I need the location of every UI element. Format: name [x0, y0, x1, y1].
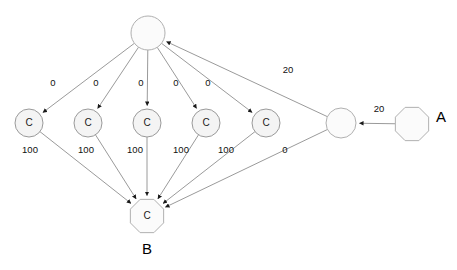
- graph-edge: [40, 132, 131, 204]
- graph-edge: [165, 129, 327, 207]
- graph-node-c5[interactable]: C: [252, 109, 280, 137]
- graph-svg: CCCCCC 0000020201001001001001000AB: [0, 0, 457, 270]
- labels-layer: 0000020201001001001001000AB: [22, 64, 446, 257]
- edge-weight-label: 20: [283, 64, 294, 75]
- edge-weight-label: 20: [374, 103, 385, 114]
- edge-weight-label: 0: [50, 77, 55, 88]
- node-label: C: [25, 117, 32, 128]
- graph-edge: [167, 42, 328, 117]
- edge-weight-label: 0: [205, 77, 210, 88]
- edge-weight-label: 100: [218, 144, 234, 155]
- graph-node-c3[interactable]: C: [133, 109, 161, 137]
- edge-weight-label: 100: [22, 144, 38, 155]
- graph-node-c4[interactable]: C: [192, 109, 220, 137]
- edge-weight-label: 100: [173, 144, 189, 155]
- node-label: C: [143, 117, 150, 128]
- edge-weight-label: 100: [127, 144, 143, 155]
- node-label: C: [202, 117, 209, 128]
- node-label: C: [262, 117, 269, 128]
- graph-edge: [147, 50, 148, 106]
- graph-node-r1[interactable]: [326, 108, 356, 138]
- node-label: C: [143, 210, 150, 221]
- graph-edge: [359, 123, 395, 124]
- node-shape-circle[interactable]: [131, 16, 165, 50]
- graph-node-root[interactable]: [131, 16, 165, 50]
- edge-weight-label: 0: [93, 77, 98, 88]
- graph-node-b[interactable]: C: [130, 199, 163, 232]
- edge-weight-label: 0: [138, 77, 143, 88]
- node-shape-octagon[interactable]: [395, 107, 428, 140]
- edge-weight-label: 0: [173, 77, 178, 88]
- graph-node-c2[interactable]: C: [74, 109, 102, 137]
- label-b: B: [142, 240, 152, 257]
- edge-weight-label: 0: [282, 144, 287, 155]
- graph-node-a[interactable]: [395, 107, 428, 140]
- graph-edge: [163, 132, 255, 204]
- node-label: C: [84, 117, 91, 128]
- graph-node-c1[interactable]: C: [15, 109, 43, 137]
- graph-edge: [43, 43, 134, 112]
- diagram-canvas: CCCCCC 0000020201001001001001000AB: [0, 0, 457, 270]
- label-a: A: [436, 108, 446, 125]
- nodes-layer: CCCCCC: [15, 16, 429, 233]
- graph-edge: [98, 47, 139, 108]
- node-shape-circle[interactable]: [326, 108, 356, 138]
- edge-weight-label: 100: [78, 144, 94, 155]
